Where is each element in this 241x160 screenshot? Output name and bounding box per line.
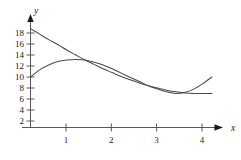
y-tick-label-8: 8 xyxy=(20,83,25,93)
y-tick-label-10: 10 xyxy=(15,72,25,82)
x-tick-label-2: 2 xyxy=(109,135,114,145)
y-tick-label-18: 18 xyxy=(15,28,25,38)
y-tick-label-2: 2 xyxy=(20,116,25,126)
x-axis-arrow-icon xyxy=(215,124,224,131)
x-tick-label-4: 4 xyxy=(200,135,205,145)
graph-figure: 18 16 14 12 10 8 6 4 2 1 2 3 4 y x xyxy=(0,0,241,160)
x-tick-label-1: 1 xyxy=(64,135,69,145)
x-axis-label: x xyxy=(230,123,236,133)
y-tick-label-12: 12 xyxy=(15,61,24,71)
x-tick-label-3: 3 xyxy=(154,135,159,145)
y-axis-arrow-icon xyxy=(27,14,33,22)
y-tick-label-4: 4 xyxy=(20,105,25,115)
chart-canvas: 18 16 14 12 10 8 6 4 2 1 2 3 4 y x xyxy=(0,0,241,160)
y-tick-label-6: 6 xyxy=(20,94,25,104)
y-axis-label: y xyxy=(33,6,39,16)
y-tick-label-16: 16 xyxy=(15,39,25,49)
y-tick-label-14: 14 xyxy=(15,50,25,60)
